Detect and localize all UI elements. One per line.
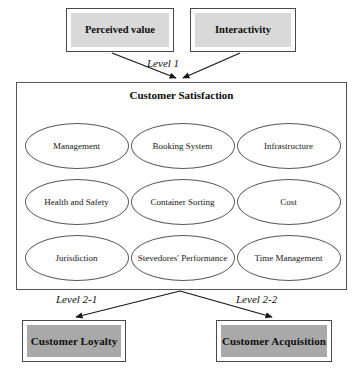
antecedent-box-perceived-value: Perceived value — [66, 8, 174, 52]
customer-satisfaction-title: Customer Satisfaction — [17, 89, 346, 101]
outcome-box-customer-loyalty: Customer Loyalty — [22, 320, 126, 362]
dimension-ellipse-infrastructure: Infrastructure — [237, 123, 341, 169]
dimension-ellipse-container-sorting: Container Sorting — [131, 179, 235, 225]
dimension-ellipse-booking-system: Booking System — [131, 123, 235, 169]
antecedent-box-interactivity: Interactivity — [190, 8, 296, 52]
dimension-cell: Infrastructure — [236, 119, 341, 173]
level-label-2-2: Level 2-2 — [236, 293, 277, 305]
level-label-1: Level 1 — [147, 57, 179, 69]
outcome-label-customer-acquisition: Customer Acquisition — [221, 325, 327, 357]
dimension-cell: Health and Safety — [24, 175, 129, 229]
customer-satisfaction-container: Customer Satisfaction Management Booking… — [16, 82, 347, 290]
level-label-2-1: Level 2-1 — [56, 293, 97, 305]
dimension-ellipse-management: Management — [25, 123, 129, 169]
dimension-ellipse-stevedores-performance: Stevedores' Performance — [131, 235, 235, 281]
dimension-ellipse-health-and-safety: Health and Safety — [25, 179, 129, 225]
dimension-cell: Container Sorting — [130, 175, 235, 229]
dimension-cell: Stevedores' Performance — [130, 231, 235, 285]
outcome-label-customer-loyalty: Customer Loyalty — [27, 325, 121, 357]
conceptual-model-figure: Perceived value Interactivity Level 1 Cu… — [0, 0, 361, 380]
arrow-interactivity-to-satisfaction — [183, 53, 240, 78]
dimension-ellipse-cost: Cost — [237, 179, 341, 225]
dimension-cell: Management — [24, 119, 129, 173]
outcome-box-customer-acquisition: Customer Acquisition — [216, 320, 332, 362]
dimension-cell: Cost — [236, 175, 341, 229]
dimension-cell: Booking System — [130, 119, 235, 173]
antecedent-label-perceived-value: Perceived value — [71, 13, 169, 47]
dimension-ellipse-jurisdiction: Jurisdiction — [25, 235, 129, 281]
dimension-cell: Time Management — [236, 231, 341, 285]
dimension-cell: Jurisdiction — [24, 231, 129, 285]
antecedent-label-interactivity: Interactivity — [195, 13, 291, 47]
dimension-ellipse-time-management: Time Management — [237, 235, 341, 281]
satisfaction-dimension-grid: Management Booking System Infrastructure… — [24, 119, 341, 285]
